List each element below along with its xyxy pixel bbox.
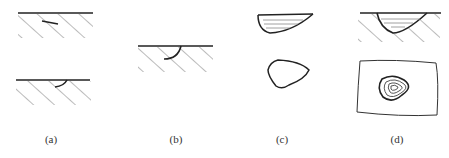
panel-a-top xyxy=(18,13,93,38)
panel-b xyxy=(138,46,213,72)
panel-label-c: (c) xyxy=(276,133,288,145)
panel-d-pit xyxy=(358,13,441,42)
panel-d-plan xyxy=(357,60,438,115)
panel-c-wedge xyxy=(258,14,313,33)
diagram-canvas xyxy=(0,0,449,158)
panel-label-b: (b) xyxy=(170,133,183,145)
panel-c-outline xyxy=(268,60,309,88)
panel-label-d: (d) xyxy=(391,133,404,145)
panel-a-bottom xyxy=(16,80,91,105)
panel-label-a: (a) xyxy=(45,133,57,145)
